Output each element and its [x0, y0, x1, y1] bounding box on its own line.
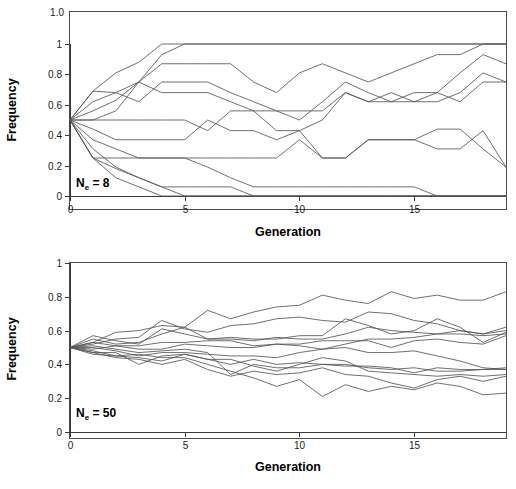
trajectory-line [70, 44, 506, 120]
axis-ticks-ne8 [65, 44, 506, 201]
x-axis-title-ne50: Generation [255, 460, 321, 474]
plot-frame-ne50 [70, 263, 507, 439]
y-tick-label: 0.8 [48, 292, 62, 303]
trajectory-line [70, 312, 506, 347]
y-tick-label: 0.4 [48, 359, 62, 370]
trajectory-line [70, 120, 506, 167]
y-axis-title-ne50: Frequency [5, 317, 19, 380]
trajectory-line [70, 55, 506, 120]
trajectory-line [70, 348, 506, 370]
trajectory-line [70, 44, 506, 120]
y-tick-label: 0.6 [48, 326, 62, 337]
trajectory-lines-ne8 [70, 44, 506, 196]
x-tick-label: 0 [68, 204, 74, 215]
x-tick-label: 0 [68, 440, 74, 451]
y-tick-label: 0 [56, 191, 62, 202]
trajectory-line [70, 346, 506, 375]
trajectory-line [70, 334, 506, 349]
chart-svg-ne8: 00.20.40.60.81051015 1.0 Generation Freq… [0, 0, 516, 244]
x-tick-label: 5 [183, 204, 189, 215]
genetic-drift-figure: 00.20.40.60.81051015 1.0 Generation Freq… [0, 0, 516, 489]
chart-panel-ne8: 00.20.40.60.81051015 1.0 Generation Freq… [0, 0, 516, 244]
y-tick-label: 0.8 [48, 69, 62, 80]
trajectory-lines-ne50 [70, 292, 506, 397]
chart-svg-ne50: 00.20.40.60.81051015 Generation Frequenc… [0, 244, 516, 489]
axis-ticks-ne50 [65, 263, 506, 437]
trajectory-line [70, 73, 506, 131]
annotation-ne8: Ne = 8 [76, 176, 110, 192]
axis-tick-labels-ne50: 00.20.40.60.81051015 [48, 258, 420, 451]
x-tick-label: 10 [294, 204, 306, 215]
annotation-ne8-rest: = 8 [89, 176, 110, 190]
x-tick-label: 15 [409, 204, 421, 215]
annotation-ne8-base: N [76, 176, 85, 190]
y-tick-label: 1 [56, 39, 62, 50]
chart-panel-ne50: 00.20.40.60.81051015 Generation Frequenc… [0, 244, 516, 489]
x-tick-label: 10 [294, 440, 306, 451]
y-tick-label: 0.2 [48, 161, 62, 172]
trajectory-line [70, 44, 506, 120]
y-tick-label: 0.2 [48, 393, 62, 404]
trajectory-line [70, 120, 506, 167]
x-axis-title-ne8: Generation [255, 225, 321, 239]
y-tick-label: 0.6 [48, 100, 62, 111]
x-tick-label: 5 [183, 440, 189, 451]
y-axis-title-ne8: Frequency [5, 78, 19, 141]
y-tick-label: 1 [56, 258, 62, 269]
annotation-ne50-base: N [76, 406, 85, 420]
annotation-ne50-rest: = 50 [89, 406, 116, 420]
y-tick-label: 0.4 [48, 130, 62, 141]
y-tick-label: 0 [56, 427, 62, 438]
annotation-ne50: Ne = 50 [76, 406, 116, 422]
x-tick-label: 15 [409, 440, 421, 451]
extra-y-tick-label-top: 1.0 [50, 7, 64, 18]
trajectory-line [70, 120, 506, 196]
